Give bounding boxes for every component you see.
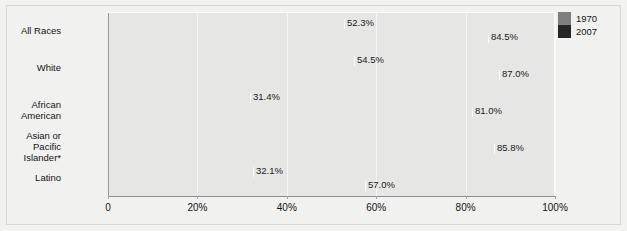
data-label-2007-1: 87.0% bbox=[502, 69, 529, 79]
bar-end-marker bbox=[253, 167, 254, 177]
bar-end-marker bbox=[250, 93, 251, 103]
category-label-4: Latino bbox=[35, 172, 61, 183]
x-tick-60 bbox=[376, 196, 377, 199]
data-label-2007-2: 81.0% bbox=[475, 106, 502, 116]
bar-end-marker bbox=[499, 70, 500, 80]
bar-end-marker bbox=[344, 19, 345, 29]
bar-2007-1[interactable] bbox=[108, 69, 497, 81]
bar-2007-4[interactable] bbox=[108, 180, 363, 192]
chart-legend: 1970 2007 bbox=[558, 12, 597, 38]
legend-swatch-2007 bbox=[558, 25, 571, 38]
data-label-1970-1: 54.5% bbox=[357, 55, 384, 65]
x-tick-label-20: 20% bbox=[187, 202, 207, 213]
category-label-1: White bbox=[37, 62, 61, 73]
legend-item-2007: 2007 bbox=[558, 25, 597, 38]
bar-1970-0[interactable] bbox=[108, 18, 342, 30]
plot-area bbox=[108, 12, 555, 196]
category-label-0: All Races bbox=[21, 25, 61, 36]
legend-label-2007: 2007 bbox=[576, 25, 597, 38]
bar-1970-2[interactable] bbox=[108, 92, 248, 104]
x-tick-label-80: 80% bbox=[456, 202, 476, 213]
x-tick-80 bbox=[466, 196, 467, 199]
bar-end-marker bbox=[488, 33, 489, 43]
bar-end-marker bbox=[494, 144, 495, 154]
bar-2007-3[interactable] bbox=[108, 143, 492, 155]
legend-swatch-1970 bbox=[558, 12, 571, 25]
gridline-100 bbox=[555, 13, 556, 196]
bar-end-marker bbox=[354, 56, 355, 66]
x-tick-0 bbox=[108, 196, 109, 199]
x-tick-label-0: 0 bbox=[105, 202, 111, 213]
bar-end-marker bbox=[365, 181, 366, 191]
x-tick-label-100: 100% bbox=[542, 202, 568, 213]
bar-1970-1[interactable] bbox=[108, 55, 352, 67]
x-tick-label-40: 40% bbox=[277, 202, 297, 213]
x-tick-40 bbox=[287, 196, 288, 199]
bar-1970-4[interactable] bbox=[108, 166, 251, 178]
legend-item-1970: 1970 bbox=[558, 12, 597, 25]
chart-figure: 1970 2007 020%40%60%80%100%52.3%84.5%All… bbox=[0, 0, 627, 231]
bar-2007-2[interactable] bbox=[108, 106, 470, 118]
data-label-1970-0: 52.3% bbox=[347, 18, 374, 28]
bar-2007-0[interactable] bbox=[108, 32, 486, 44]
data-label-2007-3: 85.8% bbox=[497, 143, 524, 153]
data-label-2007-0: 84.5% bbox=[491, 32, 518, 42]
data-label-1970-2: 31.4% bbox=[253, 92, 280, 102]
category-label-2: African American bbox=[0, 99, 61, 121]
x-tick-20 bbox=[197, 196, 198, 199]
x-tick-100 bbox=[555, 196, 556, 199]
category-label-3: Asian or Pacific Islander* bbox=[0, 130, 61, 163]
data-label-1970-4: 32.1% bbox=[256, 166, 283, 176]
x-axis-line bbox=[108, 196, 555, 197]
legend-label-1970: 1970 bbox=[576, 12, 597, 25]
data-label-2007-4: 57.0% bbox=[368, 180, 395, 190]
bar-end-marker bbox=[472, 107, 473, 117]
x-tick-label-60: 60% bbox=[366, 202, 386, 213]
